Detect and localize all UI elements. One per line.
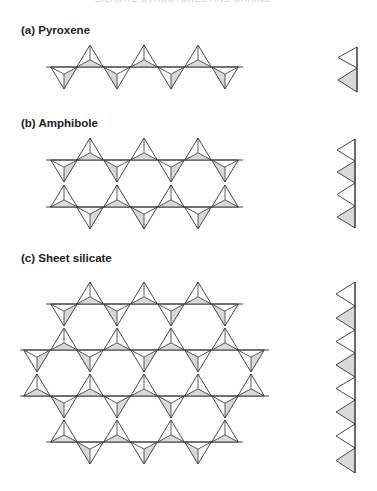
tetrahedron <box>104 304 131 326</box>
tetrahedron <box>77 442 104 464</box>
side-tetrahedron-shaded <box>336 353 355 377</box>
tetrahedron <box>212 304 239 326</box>
side-tetrahedron <box>338 47 357 68</box>
tetrahedron <box>185 374 212 396</box>
amphibole-side-view <box>337 139 355 228</box>
tetrahedron <box>212 67 239 89</box>
tetrahedron <box>24 350 51 372</box>
tetrahedron <box>51 67 78 89</box>
tetrahedron <box>212 185 239 207</box>
side-tetrahedron-shaded <box>338 68 357 92</box>
tetrahedron <box>51 185 78 207</box>
side-tetrahedron <box>336 424 355 448</box>
tetrahedron <box>238 374 265 396</box>
side-tetrahedron <box>336 282 355 306</box>
tetrahedron <box>104 420 131 442</box>
tetrahedron <box>212 396 239 418</box>
tetrahedron <box>158 160 185 182</box>
side-tetrahedron <box>337 183 355 206</box>
tetrahedron <box>77 374 104 396</box>
tetrahedron <box>238 350 265 372</box>
tetrahedron <box>77 45 104 67</box>
tetrahedron <box>51 396 78 418</box>
tetrahedron <box>77 282 104 304</box>
side-tetrahedron-shaded <box>337 161 355 183</box>
tetrahedron <box>185 207 212 229</box>
tetrahedron <box>77 350 104 372</box>
tetrahedron <box>131 45 158 67</box>
tetrahedron <box>104 328 131 350</box>
tetrahedron <box>24 374 51 396</box>
tetrahedron <box>185 350 212 372</box>
tetrahedron <box>104 67 131 89</box>
tetrahedron <box>131 442 158 464</box>
tetrahedron <box>51 328 78 350</box>
pyroxene-chain <box>46 45 243 89</box>
side-tetrahedron-shaded <box>336 448 355 473</box>
tetrahedron <box>185 45 212 67</box>
sheet-silicate-side-view <box>336 282 355 473</box>
tetrahedron <box>212 160 239 182</box>
tetrahedron <box>158 328 185 350</box>
side-tetrahedron-shaded <box>336 400 355 424</box>
tetrahedron <box>104 396 131 418</box>
tetrahedron <box>77 207 104 229</box>
silicate-structures-diagram <box>0 0 377 491</box>
side-tetrahedron <box>336 377 355 400</box>
pyroxene-side-view <box>338 47 357 92</box>
tetrahedron <box>131 138 158 160</box>
tetrahedron <box>212 420 239 442</box>
tetrahedron <box>131 374 158 396</box>
tetrahedron <box>104 185 131 207</box>
tetrahedron <box>131 207 158 229</box>
tetrahedron <box>185 138 212 160</box>
tetrahedron <box>51 160 78 182</box>
side-tetrahedron <box>336 330 355 353</box>
side-tetrahedron <box>337 139 355 161</box>
tetrahedron <box>158 185 185 207</box>
tetrahedron <box>185 282 212 304</box>
tetrahedron <box>51 420 78 442</box>
tetrahedron <box>77 138 104 160</box>
side-tetrahedron-shaded <box>336 306 355 330</box>
tetrahedron <box>131 282 158 304</box>
side-tetrahedron-shaded <box>337 206 355 228</box>
tetrahedron <box>158 67 185 89</box>
tetrahedron <box>212 328 239 350</box>
tetrahedron <box>158 420 185 442</box>
tetrahedron <box>131 350 158 372</box>
tetrahedron <box>158 396 185 418</box>
tetrahedron <box>51 304 78 326</box>
sheet-silicate-network <box>20 282 269 464</box>
tetrahedron <box>158 304 185 326</box>
tetrahedron <box>104 160 131 182</box>
amphibole-double-chain <box>46 138 243 229</box>
tetrahedron <box>185 442 212 464</box>
